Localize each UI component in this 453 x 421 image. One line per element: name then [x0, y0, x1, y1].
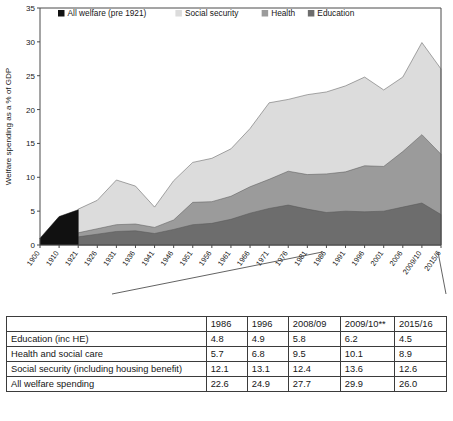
table-cell: 4.8 [206, 332, 247, 347]
y-tick-label: 35 [26, 4, 35, 13]
legend-swatch [58, 10, 65, 17]
table-row: All welfare spending22.624.927.729.926.0 [7, 377, 447, 392]
table-cell: 6.8 [247, 347, 288, 362]
x-tick-label: 1966 [235, 249, 252, 268]
table-row-label: All welfare spending [7, 377, 207, 392]
y-tick-label: 5 [31, 207, 36, 216]
x-tick-label: 2009/10 [401, 249, 424, 276]
table-cell: 13.1 [247, 362, 288, 377]
table-header-row: 198619962008/092009/10**2015/16 [7, 317, 447, 332]
y-axis-title: Welfare spending as a % of GDP [4, 68, 13, 185]
x-tick-label: 1991 [330, 249, 347, 268]
x-tick-label: 1976 [273, 249, 290, 268]
callout-line-2015 [438, 252, 446, 294]
table-row-label: Education (inc HE) [7, 332, 207, 347]
table-cell: 24.9 [247, 377, 288, 392]
table-cell: 27.7 [288, 377, 340, 392]
x-tick-label: 1931 [101, 249, 118, 268]
table-cell: 13.6 [340, 362, 394, 377]
table-cell: 5.8 [288, 332, 340, 347]
table-cell: 4.9 [247, 332, 288, 347]
x-tick-label: 1946 [158, 249, 175, 268]
table-corner-cell [7, 317, 207, 332]
table-column-header: 2009/10** [340, 317, 394, 332]
welfare-spending-table: 198619962008/092009/10**2015/16Education… [6, 316, 447, 392]
x-tick-label: 1921 [63, 249, 80, 268]
x-tick-label: 1986 [311, 249, 328, 268]
table-row-label: Social security (including housing benef… [7, 362, 207, 377]
table-cell: 12.1 [206, 362, 247, 377]
table-column-header: 2015/16 [394, 317, 446, 332]
y-tick-label: 0 [31, 241, 36, 250]
table-cell: 12.6 [394, 362, 446, 377]
legend-swatch [262, 10, 269, 17]
table-cell: 4.5 [394, 332, 446, 347]
legend-label: All welfare (pre 1921) [68, 8, 147, 18]
table-row: Social security (including housing benef… [7, 362, 447, 377]
x-tick-label: 2001 [369, 249, 386, 268]
table-column-header: 2008/09 [288, 317, 340, 332]
table-column-header: 1986 [206, 317, 247, 332]
table-row: Education (inc HE)4.84.95.86.24.5 [7, 332, 447, 347]
legend-label: Health [271, 8, 295, 18]
x-tick-label: 1961 [216, 249, 233, 268]
x-tick-label: 1926 [82, 249, 99, 268]
x-tick-label: 1981 [292, 249, 309, 268]
legend-swatch [308, 10, 315, 17]
table-cell: 9.5 [288, 347, 340, 362]
x-tick-label: 1941 [139, 249, 156, 268]
table-cell: 5.7 [206, 347, 247, 362]
y-tick-label: 25 [26, 72, 35, 81]
x-tick-label: 1951 [178, 249, 195, 268]
y-tick-label: 15 [26, 139, 35, 148]
stacked-area-chart: 05101520253035Welfare spending as a % of… [0, 0, 453, 295]
x-tick-label: 1996 [349, 249, 366, 268]
table-column-header: 1996 [247, 317, 288, 332]
table-cell: 29.9 [340, 377, 394, 392]
figure-container: 05101520253035Welfare spending as a % of… [0, 0, 453, 421]
y-tick-label: 30 [26, 38, 35, 47]
x-tick-label: 1956 [197, 249, 214, 268]
legend-label: Social security [185, 8, 239, 18]
area-band-all-welfare-pre-1921 [40, 210, 78, 245]
y-tick-label: 20 [26, 106, 35, 115]
x-tick-label: 2006 [388, 249, 405, 268]
table-row: Health and social care5.76.89.510.18.9 [7, 347, 447, 362]
table-cell: 8.9 [394, 347, 446, 362]
legend-label: Education [317, 8, 354, 18]
x-tick-label: 1910 [44, 249, 61, 268]
table-cell: 12.4 [288, 362, 340, 377]
table-cell: 6.2 [340, 332, 394, 347]
table-row-label: Health and social care [7, 347, 207, 362]
chart-svg: 05101520253035Welfare spending as a % of… [0, 0, 453, 295]
table-cell: 10.1 [340, 347, 394, 362]
table-cell: 22.6 [206, 377, 247, 392]
x-tick-label: 1936 [120, 249, 137, 268]
legend-swatch [175, 10, 182, 17]
y-tick-label: 10 [26, 173, 35, 182]
x-tick-label: 1900 [25, 249, 42, 268]
table-body: 198619962008/092009/10**2015/16Education… [7, 317, 447, 392]
table-cell: 26.0 [394, 377, 446, 392]
